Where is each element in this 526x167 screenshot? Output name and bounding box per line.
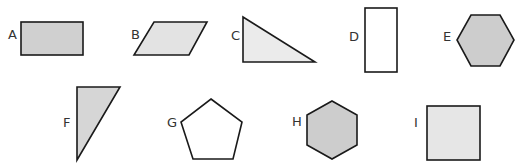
shape-h: H	[292, 101, 357, 159]
label-b: B	[131, 27, 140, 42]
label-d: D	[349, 29, 359, 44]
hexagon-h	[307, 101, 357, 159]
shape-d: D	[349, 8, 397, 72]
hexagon-e	[457, 15, 514, 66]
shapes-diagram: A B C D E F G H I	[0, 0, 526, 167]
shape-a: A	[8, 22, 83, 55]
label-c: C	[231, 28, 240, 43]
label-f: F	[63, 115, 70, 130]
label-a: A	[8, 27, 17, 42]
parallelogram-b	[134, 22, 207, 55]
rectangle-d	[365, 8, 397, 72]
square-i	[427, 106, 480, 160]
label-h: H	[292, 114, 302, 129]
shape-e: E	[443, 15, 514, 66]
triangle-f	[77, 87, 120, 160]
pentagon-g	[181, 99, 242, 159]
shape-f: F	[63, 87, 120, 160]
rectangle-a	[21, 22, 83, 55]
label-i: I	[414, 115, 418, 130]
shape-i: I	[414, 106, 480, 160]
shape-b: B	[131, 22, 207, 55]
triangle-c	[243, 17, 315, 62]
label-g: G	[167, 115, 177, 130]
label-e: E	[443, 29, 451, 44]
shape-g: G	[167, 99, 242, 159]
shape-c: C	[231, 17, 315, 62]
